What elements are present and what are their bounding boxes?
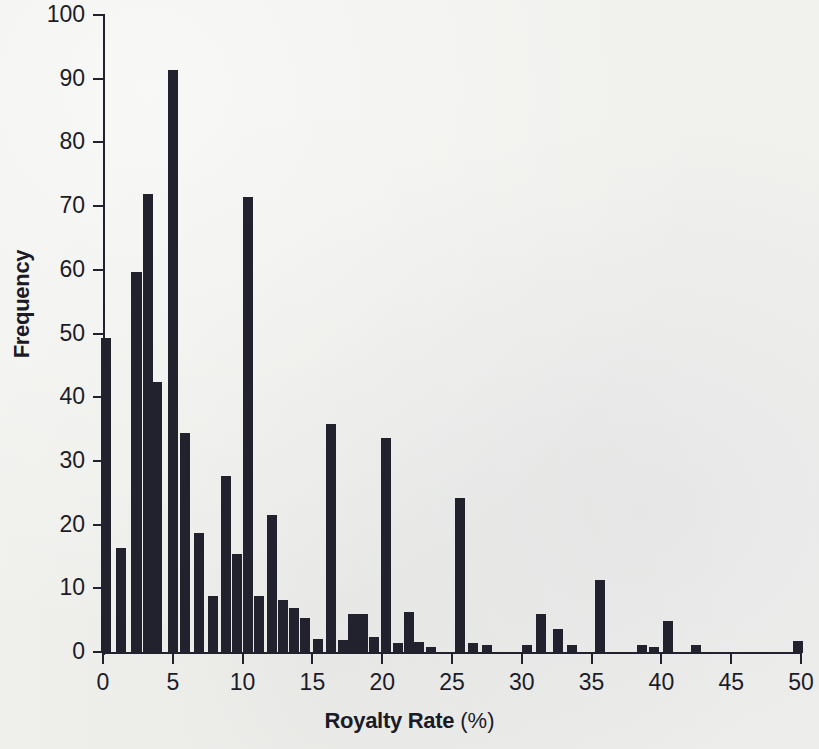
y-axis-tick-label: 60 [59, 256, 85, 283]
y-axis-tick-label: 30 [59, 447, 85, 474]
x-axis-title-unit: (%) [460, 708, 494, 733]
histogram-bar [691, 645, 701, 653]
y-axis-tick-label: 10 [59, 574, 85, 601]
y-axis-tick-label: 100 [47, 1, 85, 28]
histogram-bar [313, 639, 323, 653]
x-axis-tick-label: 40 [649, 669, 675, 696]
histogram-bar [208, 596, 218, 653]
x-axis-tick-label: 10 [230, 669, 256, 696]
y-axis-tick-label: 40 [59, 383, 85, 410]
histogram-bar [404, 612, 414, 653]
y-axis-tick: 60 [93, 269, 103, 271]
x-axis-tick: 25 [451, 653, 453, 664]
histogram-bar [536, 614, 546, 653]
histogram-bar [393, 643, 403, 653]
y-axis-tick: 100 [93, 14, 103, 16]
y-axis-tick: 50 [93, 333, 103, 335]
plot-area: 0102030405060708090100051015202530354045… [103, 16, 801, 653]
histogram-bar [180, 433, 190, 653]
histogram-bar [267, 515, 277, 653]
histogram-bar [553, 629, 563, 653]
histogram-bar [468, 643, 478, 653]
histogram-bar [168, 70, 178, 653]
y-axis-tick-label: 90 [59, 65, 85, 92]
histogram-bar [522, 645, 532, 653]
histogram-bar [338, 640, 348, 653]
x-axis-tick: 15 [311, 653, 313, 664]
histogram-bar [455, 498, 465, 653]
histogram-bar [663, 621, 673, 653]
y-axis-tick: 90 [93, 78, 103, 80]
histogram-bar [116, 548, 126, 653]
x-axis-title: Royalty Rate (%) [0, 708, 819, 734]
x-axis-tick-label: 50 [788, 669, 814, 696]
histogram-bar [369, 637, 379, 653]
histogram-bar [278, 600, 288, 654]
histogram-bar [300, 618, 310, 653]
x-axis-tick-label: 20 [369, 669, 395, 696]
y-axis-tick-label: 20 [59, 511, 85, 538]
histogram-bar [232, 554, 242, 653]
histogram-figure: Frequency Royalty Rate (%) 0102030405060… [0, 0, 819, 749]
x-axis-tick-label: 15 [300, 669, 326, 696]
x-axis-tick: 5 [172, 653, 174, 664]
histogram-bar [194, 533, 204, 653]
histogram-bar [649, 647, 659, 653]
histogram-bar [143, 194, 153, 653]
histogram-bar [254, 596, 264, 653]
x-axis-tick: 30 [521, 653, 523, 664]
x-axis-tick-label: 0 [97, 669, 110, 696]
x-axis-tick: 50 [800, 653, 802, 664]
histogram-bar [348, 614, 358, 653]
histogram-bar [358, 614, 368, 653]
y-axis-tick-label: 80 [59, 128, 85, 155]
histogram-bar [221, 476, 231, 653]
x-axis-tick-label: 45 [718, 669, 744, 696]
x-axis-tick: 35 [591, 653, 593, 664]
x-axis-title-text: Royalty Rate [324, 708, 454, 733]
y-axis-title: Frequency [9, 244, 35, 364]
x-axis-tick: 10 [242, 653, 244, 664]
x-axis-tick: 20 [381, 653, 383, 664]
histogram-bar [595, 580, 605, 653]
histogram-bar [793, 641, 803, 653]
x-axis-tick: 45 [730, 653, 732, 664]
y-axis-tick-label: 50 [59, 320, 85, 347]
histogram-bar [381, 438, 391, 653]
x-axis-tick-label: 25 [439, 669, 465, 696]
y-axis-tick-label: 70 [59, 192, 85, 219]
y-axis-tick: 70 [93, 205, 103, 207]
histogram-bar [289, 608, 299, 653]
histogram-bar [482, 645, 492, 653]
histogram-bar [243, 197, 253, 653]
histogram-bar [567, 645, 577, 653]
x-axis-tick: 40 [660, 653, 662, 664]
x-axis-tick-label: 30 [509, 669, 535, 696]
histogram-bar [326, 424, 336, 653]
histogram-bar [426, 647, 436, 653]
x-axis-tick-label: 5 [166, 669, 179, 696]
histogram-bar [152, 382, 162, 653]
histogram-bar [413, 642, 423, 653]
x-axis-tick-label: 35 [579, 669, 605, 696]
y-axis-tick-label: 0 [72, 638, 85, 665]
histogram-bar [637, 645, 647, 653]
histogram-bar [131, 272, 141, 653]
x-axis-tick: 0 [102, 653, 104, 664]
y-axis-tick: 80 [93, 141, 103, 143]
histogram-bar [101, 338, 111, 653]
